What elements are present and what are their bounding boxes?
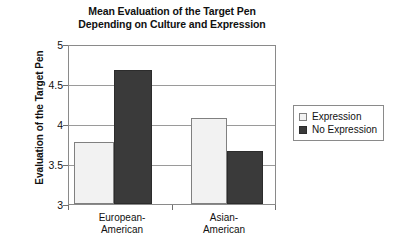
chart-title-line-2: Depending on Culture and Expression [56, 18, 288, 31]
chart-title: Mean Evaluation of the Target Pen Depend… [56, 5, 288, 30]
y-tick-label-3.5: 3.5 [48, 160, 63, 170]
bar-european-american-no-expression [114, 70, 152, 204]
bar-chart: Mean Evaluation of the Target Pen Depend… [0, 0, 400, 248]
legend-item-no-expression: No Expression [299, 123, 377, 136]
legend-item-expression: Expression [299, 110, 377, 123]
legend-label-no-expression: No Expression [312, 124, 377, 135]
x-category-label-asian-american-line-2: American [172, 224, 276, 236]
x-category-label-european-american-line-2: American [70, 224, 174, 236]
bar-asian-american-no-expression [227, 151, 263, 204]
x-category-label-european-american-line-1: European- [70, 212, 174, 224]
x-category-label-asian-american: Asian- American [172, 212, 276, 235]
legend-label-expression: Expression [312, 111, 361, 122]
gridline-4 [69, 125, 275, 126]
plot-area [68, 45, 276, 205]
x-category-label-asian-american-line-1: Asian- [172, 212, 276, 224]
bar-asian-american-expression [191, 118, 227, 204]
legend-swatch-no-expression-icon [299, 126, 307, 134]
chart-title-line-1: Mean Evaluation of the Target Pen [56, 5, 288, 18]
bar-european-american-expression [74, 142, 114, 204]
gridline-4.5 [69, 85, 275, 86]
y-tick-label-4.5: 4.5 [48, 80, 63, 90]
x-tick-mark-left [68, 205, 69, 210]
x-category-label-european-american: European- American [70, 212, 174, 235]
legend-swatch-expression-icon [299, 113, 307, 121]
x-tick-mark-right [275, 205, 276, 210]
y-axis-label: Evaluation of the Target Pen [34, 23, 45, 213]
chart-legend: Expression No Expression [293, 105, 384, 141]
x-tick-mark-middle [172, 205, 173, 210]
